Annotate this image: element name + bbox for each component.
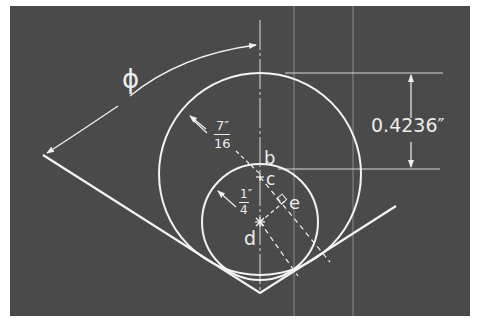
large-radius-fraction-bar	[214, 134, 230, 135]
large-radius-dash	[236, 151, 260, 174]
angle-arc	[130, 45, 256, 96]
point-c-label: c	[266, 171, 275, 188]
point-d-marker	[255, 217, 265, 227]
point-e-label: e	[289, 194, 300, 212]
small-radius-label-den: 4	[240, 204, 248, 216]
angle-label: ϕ	[122, 66, 139, 92]
geometry-drawing	[0, 0, 477, 327]
dashed-line-c	[260, 177, 330, 262]
tangent-v-lines	[43, 155, 396, 293]
small-radius-arrow	[218, 191, 236, 207]
point-b-label: b	[264, 149, 275, 167]
large-radius-label-den: 16	[214, 137, 231, 150]
point-d-label: d	[244, 229, 256, 248]
large-radius-leader	[192, 119, 207, 133]
small-radius-label-num: 1″	[240, 188, 252, 200]
large-radius-arrow	[190, 116, 206, 129]
large-radius-label-num: 7″	[216, 119, 229, 132]
dashed-line-d	[260, 222, 298, 276]
angle-arc-lower	[47, 106, 118, 153]
dimension-label: 0.4236″	[371, 116, 445, 135]
